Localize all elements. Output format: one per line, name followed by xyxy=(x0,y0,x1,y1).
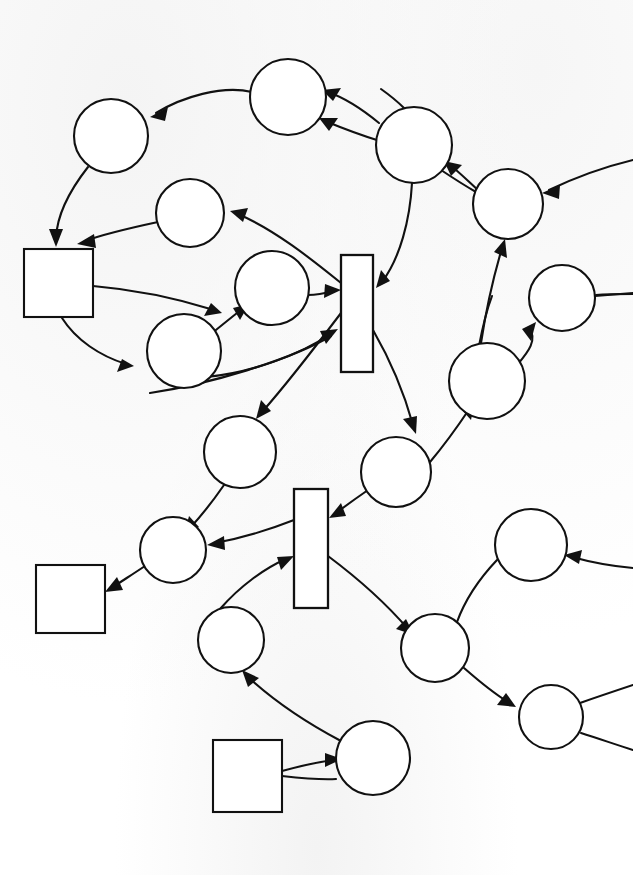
box-b1[interactable] xyxy=(24,249,93,317)
arrowhead-p1-b1 xyxy=(49,229,63,247)
place-p16[interactable] xyxy=(336,721,410,795)
place-p15[interactable] xyxy=(401,614,469,682)
arrowhead-b1-p6 xyxy=(204,303,222,316)
edge-p11-p9 xyxy=(430,408,470,462)
transition-bar-t2[interactable] xyxy=(294,489,328,608)
edge-p15-p17 xyxy=(464,668,508,702)
arrowhead-p15-p17 xyxy=(497,693,516,707)
place-p3[interactable] xyxy=(376,107,452,183)
edge-p7-t1 xyxy=(206,334,330,377)
edge-t2-p12 xyxy=(215,520,294,543)
arrowhead-p11-t2 xyxy=(329,503,346,518)
place-p1[interactable] xyxy=(74,99,148,173)
place-p8[interactable] xyxy=(529,265,595,331)
arrowhead-p5-b1 xyxy=(77,234,96,248)
arrowhead-p2-p1 xyxy=(150,107,168,121)
edge-p1-b1 xyxy=(56,167,88,238)
place-p6[interactable] xyxy=(235,251,309,325)
arrowhead-p12-b2 xyxy=(105,577,123,592)
box-b3[interactable] xyxy=(213,740,282,812)
place-p10[interactable] xyxy=(204,416,276,488)
place-p9[interactable] xyxy=(449,343,525,419)
edge-offscreen-p4 xyxy=(549,160,633,190)
box-b2[interactable] xyxy=(36,565,105,633)
edge-t2-p15 xyxy=(328,556,408,629)
edge-p5-b1 xyxy=(85,222,158,241)
arrowhead-p6-t1 xyxy=(324,284,341,298)
edge-p14-t2 xyxy=(220,559,286,609)
place-p5[interactable] xyxy=(156,179,224,247)
arrowhead-p14-t2 xyxy=(277,556,294,570)
transition-bar-t1[interactable] xyxy=(341,255,373,372)
arrowhead-t1-p11 xyxy=(403,416,417,434)
place-p14[interactable] xyxy=(198,607,264,673)
edge-layer xyxy=(49,88,633,779)
edge-p16-p14 xyxy=(248,677,341,741)
edge-b3-tail xyxy=(282,776,336,779)
edge-p3-t1 xyxy=(382,183,412,282)
edge-offscreen-p13 xyxy=(572,557,633,568)
arrowhead-t2-p12 xyxy=(207,536,225,550)
arrowhead-offscreen-p4 xyxy=(542,185,560,199)
diagram-canvas: Hand-drawn Petri net style graph xyxy=(0,0,633,875)
place-p7[interactable] xyxy=(147,314,221,388)
place-p17[interactable] xyxy=(519,685,583,749)
arrowhead-t1-p5 xyxy=(230,208,248,222)
place-p12[interactable] xyxy=(140,517,206,583)
edge-p3-top-tail xyxy=(381,89,404,108)
edge-p10-p12 xyxy=(190,485,224,528)
arrowhead-p9-p8 xyxy=(522,322,536,341)
edge-p17-tail-lower xyxy=(581,733,633,750)
edge-b1-p7 xyxy=(62,318,126,364)
place-p4[interactable] xyxy=(473,169,543,239)
petri-net-diagram: Hand-drawn Petri net style graph xyxy=(0,0,633,875)
edge-p17-tail-upper xyxy=(580,685,633,703)
place-p2[interactable] xyxy=(250,59,326,135)
place-p11[interactable] xyxy=(361,437,431,507)
edge-b1-p6 xyxy=(93,286,214,310)
edge-t1-p11 xyxy=(373,330,413,425)
place-p13[interactable] xyxy=(495,509,567,581)
edge-p2-p1 xyxy=(156,90,252,113)
edge-p13-tail xyxy=(457,560,497,622)
